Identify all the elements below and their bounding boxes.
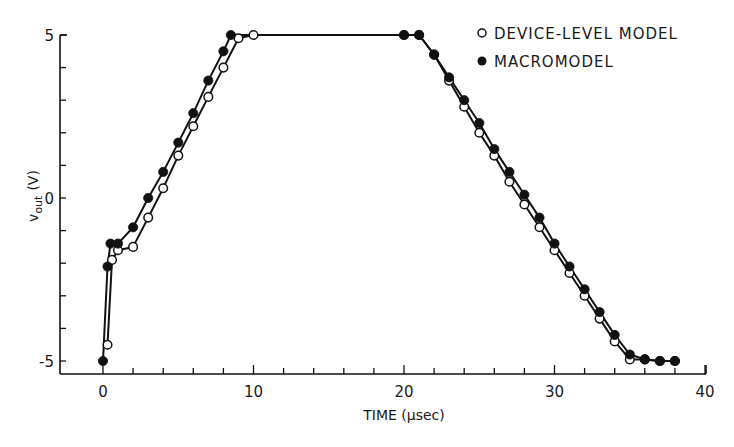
filled-circle-marker-icon xyxy=(550,239,559,248)
legend-label-device-level: DEVICE-LEVEL MODEL xyxy=(494,25,678,43)
x-tick-label: 30 xyxy=(545,383,564,401)
chart: 010203040 -505 TIME (μsec) vout(V) DEVIC… xyxy=(0,0,734,447)
filled-circle-marker-icon xyxy=(189,109,198,118)
filled-circle-marker-icon xyxy=(226,30,235,39)
open-circle-marker-icon xyxy=(159,184,168,193)
series-line-macromodel xyxy=(103,35,675,361)
filled-circle-marker-icon xyxy=(625,350,634,359)
open-circle-marker-icon xyxy=(219,63,228,72)
legend-item-macromodel: MACROMODEL xyxy=(478,53,614,71)
filled-circle-marker-icon xyxy=(478,57,487,66)
filled-circle-marker-icon xyxy=(475,118,484,127)
legend-label-macromodel: MACROMODEL xyxy=(494,53,614,71)
open-circle-marker-icon xyxy=(535,223,544,232)
filled-circle-marker-icon xyxy=(204,76,213,85)
filled-circle-marker-icon xyxy=(595,308,604,317)
y-tick-label: 0 xyxy=(44,190,54,208)
legend: DEVICE-LEVEL MODEL MACROMODEL xyxy=(478,25,678,71)
open-circle-marker-icon xyxy=(189,122,198,131)
open-circle-marker-icon xyxy=(505,177,514,186)
filled-circle-marker-icon xyxy=(415,30,424,39)
filled-circle-marker-icon xyxy=(399,30,408,39)
filled-circle-marker-icon xyxy=(159,167,168,176)
filled-circle-marker-icon xyxy=(460,96,469,105)
filled-circle-marker-icon xyxy=(98,356,107,365)
series-line-device-level xyxy=(108,35,675,361)
x-axis-title: TIME (μsec) xyxy=(362,407,445,423)
y-tick-label: -5 xyxy=(39,353,54,371)
open-circle-marker-icon xyxy=(475,129,484,138)
filled-circle-marker-icon xyxy=(610,330,619,339)
filled-circle-marker-icon xyxy=(174,138,183,147)
filled-circle-marker-icon xyxy=(520,190,529,199)
filled-circle-marker-icon xyxy=(113,239,122,248)
axes xyxy=(60,35,706,374)
y-tick-label: 5 xyxy=(44,27,54,45)
filled-circle-marker-icon xyxy=(670,356,679,365)
open-circle-marker-icon xyxy=(478,29,486,37)
filled-circle-marker-icon xyxy=(505,167,514,176)
x-tick-label: 0 xyxy=(98,383,108,401)
series-markers xyxy=(98,30,679,365)
filled-circle-marker-icon xyxy=(430,50,439,59)
filled-circle-marker-icon xyxy=(129,223,138,232)
open-circle-marker-icon xyxy=(204,93,213,102)
filled-circle-marker-icon xyxy=(103,262,112,271)
filled-circle-marker-icon xyxy=(144,193,153,202)
y-axis-title-sub: out xyxy=(32,195,45,214)
y-axis-title: vout(V) xyxy=(25,170,45,222)
x-tick-label: 20 xyxy=(394,383,413,401)
filled-circle-marker-icon xyxy=(490,145,499,154)
y-axis-title-unit: (V) xyxy=(25,170,41,191)
svg-text:vout(V): vout(V) xyxy=(25,170,45,222)
filled-circle-marker-icon xyxy=(219,47,228,56)
open-circle-marker-icon xyxy=(144,213,153,222)
filled-circle-marker-icon xyxy=(640,355,649,364)
open-circle-marker-icon xyxy=(129,243,138,252)
filled-circle-marker-icon xyxy=(655,356,664,365)
x-tick-labels: 010203040 xyxy=(98,383,714,401)
y-axis-title-main: v xyxy=(25,214,41,222)
x-tick-label: 10 xyxy=(244,383,263,401)
series-lines xyxy=(103,35,675,361)
open-circle-marker-icon xyxy=(103,340,112,349)
filled-circle-marker-icon xyxy=(445,73,454,82)
open-circle-marker-icon xyxy=(249,31,258,40)
filled-circle-marker-icon xyxy=(565,262,574,271)
x-tick-label: 40 xyxy=(695,383,714,401)
legend-item-device-level: DEVICE-LEVEL MODEL xyxy=(478,25,678,43)
open-circle-marker-icon xyxy=(174,151,183,160)
filled-circle-marker-icon xyxy=(535,213,544,222)
open-circle-marker-icon xyxy=(520,200,529,209)
filled-circle-marker-icon xyxy=(580,285,589,294)
